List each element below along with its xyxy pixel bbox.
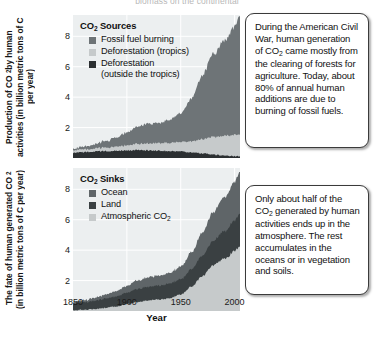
legend-label-deforestation-tropics: Deforestation (tropics)	[101, 46, 189, 57]
panel1-y-axis-title-subscript: 2	[5, 70, 12, 74]
panel2-legend-title-part-b: Sinks	[97, 173, 124, 184]
panel2-legend-title-part-a: CO	[80, 173, 94, 184]
legend-label-atmospheric-co2-text: Atmospheric CO	[101, 211, 167, 221]
legend-swatch-atmospheric-co2	[89, 214, 96, 221]
panel2-legend-title: CO2 Sinks	[80, 173, 171, 184]
panel1-legend-title-subscript: 2	[94, 25, 98, 32]
legend-item: Ocean	[80, 187, 171, 198]
y-tick-label: 6	[65, 62, 70, 72]
legend-label-atmospheric-co2: Atmospheric CO2	[101, 211, 171, 223]
panel2-y-tick-labels: 2468	[56, 168, 70, 311]
panel1-y-axis-title-part-a: Production of CO	[4, 75, 14, 144]
panel1-callout-subscript: 2	[279, 50, 283, 57]
panel1-legend-title-part-b: Sources	[97, 20, 136, 31]
legend-item: Deforestation (outside the tropics)	[80, 58, 189, 79]
y-tick-label: 8	[65, 184, 70, 194]
panel1-y-axis-title: Production of CO2 by human activities (i…	[4, 16, 38, 158]
legend-item: Deforestation (tropics)	[80, 46, 189, 57]
panel2-y-axis-title-part-b: (in billion metric tons of C per year)	[15, 169, 25, 308]
legend-label-land: Land	[101, 199, 121, 210]
panel2-callout-text: Only about half of the CO2 generated by …	[255, 193, 360, 277]
panel1-callout-text: During the American Civil War, human gen…	[255, 21, 360, 117]
panel1-callout-box: During the American Civil War, human gen…	[245, 13, 369, 148]
legend-label-ocean: Ocean	[101, 187, 128, 198]
panel1-legend-title: CO2 Sources	[80, 20, 189, 31]
panel1-legend: CO2 Sources Fossil fuel burning Deforest…	[80, 20, 189, 81]
top-cutoff-caption: biomass on the continental	[0, 0, 374, 5]
panel2-legend-title-subscript: 2	[94, 178, 98, 185]
x-axis-title: Year	[73, 312, 240, 323]
y-tick-label: 8	[65, 31, 70, 41]
legend-swatch-ocean	[89, 190, 96, 197]
x-tick-label: 2000	[225, 297, 245, 307]
legend-label-atmospheric-co2-subscript: 2	[167, 215, 171, 222]
panel2-y-axis-title-subscript: 2	[5, 171, 12, 175]
legend-swatch-fossil-fuel-burning	[89, 37, 96, 44]
y-tick-label: 6	[65, 215, 70, 225]
panel1-legend-title-part-a: CO	[80, 20, 94, 31]
y-tick-label: 4	[65, 245, 70, 255]
panel2-y-axis-title: The fate of human generated CO2 (in bill…	[4, 168, 38, 310]
x-axis-tick-labels: 1850190019502000	[73, 297, 240, 309]
panel2-y-axis-title-part-a: The fate of human generated CO	[4, 177, 14, 305]
figure-co2-sources-and-sinks: biomass on the continental Production of…	[0, 0, 374, 344]
legend-swatch-deforestation-tropics	[89, 49, 96, 56]
legend-swatch-deforestation-outside-tropics	[89, 61, 96, 68]
legend-item: Fossil fuel burning	[80, 34, 189, 45]
y-tick-label: 2	[65, 123, 70, 133]
y-tick-label: 4	[65, 92, 70, 102]
legend-item: Land	[80, 199, 171, 210]
panel2-callout-box: Only about half of the CO2 generated by …	[245, 185, 369, 295]
x-tick-label: 1900	[117, 297, 137, 307]
panel1-y-tick-labels: 2468	[56, 15, 70, 158]
legend-item: Atmospheric CO2	[80, 211, 171, 223]
panel2-callout-subscript: 2	[269, 210, 273, 217]
legend-label-deforestation-outside-tropics: Deforestation (outside the tropics)	[101, 58, 180, 79]
panel2-legend: CO2 Sinks Ocean Land Atmospheric CO2	[80, 173, 171, 224]
y-tick-label: 2	[65, 276, 70, 286]
x-tick-label: 1850	[63, 297, 83, 307]
legend-label-fossil-fuel-burning: Fossil fuel burning	[101, 34, 174, 45]
legend-swatch-land	[89, 202, 96, 209]
x-tick-label: 1950	[171, 297, 191, 307]
